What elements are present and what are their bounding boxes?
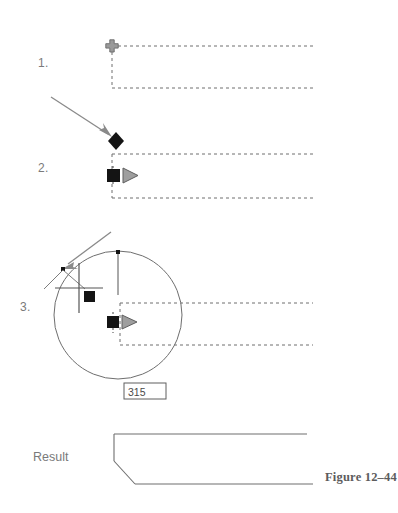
figure-caption: Figure 12–44 — [325, 470, 397, 485]
radius-endpoint-dot — [116, 250, 120, 254]
step-2-graphic — [51, 97, 313, 198]
radius-value-text: 315 — [128, 386, 146, 398]
square-marker-icon-step3-b — [107, 316, 119, 328]
step-number-3: 3. — [20, 300, 31, 314]
square-marker-icon-step3-a — [84, 291, 95, 302]
step-number-1: 1. — [38, 56, 49, 70]
figure-vector-canvas — [0, 0, 398, 513]
result-graphic — [114, 434, 313, 484]
arrow-annotation-step2 — [51, 97, 112, 137]
step-1-graphic — [106, 40, 313, 88]
square-marker-icon-step2 — [107, 169, 120, 182]
pickbox-cursor-icon-step3 — [122, 315, 137, 329]
arrow-annotation-step3 — [44, 232, 111, 289]
result-label: Result — [33, 450, 68, 464]
step-number-2: 2. — [38, 161, 49, 175]
pickbox-cursor-icon-step2 — [123, 168, 138, 183]
snap-cross-icon — [106, 40, 118, 52]
step-3-graphic — [44, 232, 313, 399]
figure-illustration: 1. 2. 3. 315 Result Figure 12–44 — [0, 0, 398, 513]
result-chamfer-edge — [114, 461, 135, 484]
